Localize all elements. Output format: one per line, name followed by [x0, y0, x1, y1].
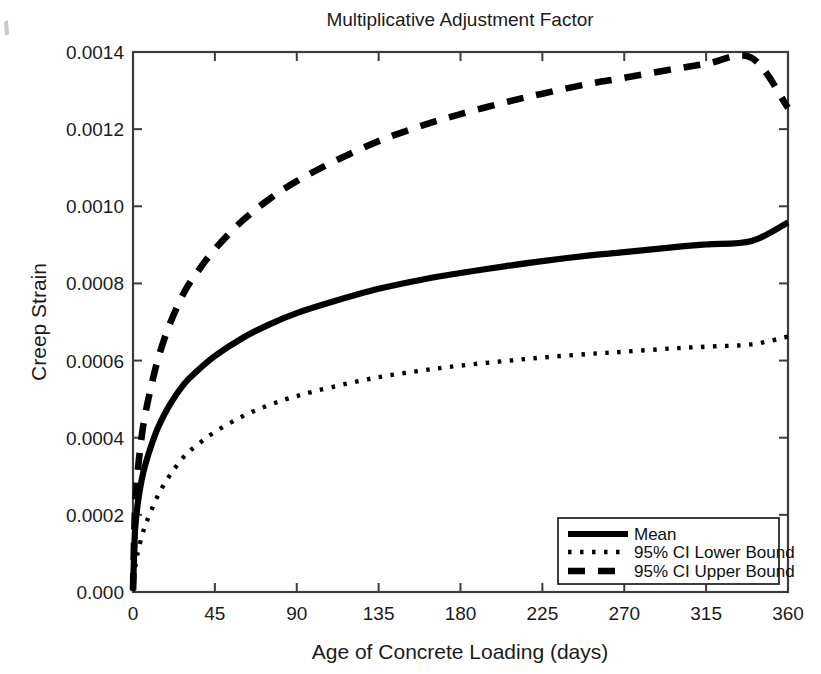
- figure-container: Multiplicative Adjustment Factor 0.0000.…: [0, 0, 821, 674]
- y-tick-label: 0.0006: [66, 351, 124, 372]
- y-tick-label: 0.000: [76, 582, 124, 603]
- x-tick-label: 315: [690, 603, 722, 624]
- x-tick-label: 360: [772, 603, 804, 624]
- legend-label: 95% CI Lower Bound: [634, 543, 795, 562]
- legend-label: Mean: [634, 525, 677, 544]
- x-tick-label: 180: [445, 603, 477, 624]
- chart-title: Multiplicative Adjustment Factor: [326, 9, 594, 30]
- x-tick-label: 135: [363, 603, 395, 624]
- y-tick-label: 0.0008: [66, 273, 124, 294]
- x-tick-label: 0: [128, 603, 139, 624]
- y-axis-title: Creep Strain: [27, 263, 50, 381]
- y-tick-label: 0.0004: [66, 428, 125, 449]
- chart-legend: Mean95% CI Lower Bound95% CI Upper Bound: [558, 518, 795, 584]
- x-tick-label: 45: [204, 603, 225, 624]
- x-tick-label: 225: [527, 603, 559, 624]
- y-tick-label: 0.0002: [66, 505, 124, 526]
- legend-label: 95% CI Upper Bound: [634, 562, 795, 581]
- x-tick-label: 90: [286, 603, 307, 624]
- x-tick-label: 270: [608, 603, 640, 624]
- creep-strain-chart: Multiplicative Adjustment Factor 0.0000.…: [0, 0, 821, 674]
- y-tick-label: 0.0014: [66, 42, 125, 63]
- y-tick-label: 0.0012: [66, 119, 124, 140]
- x-axis-title: Age of Concrete Loading (days): [312, 640, 609, 663]
- y-tick-label: 0.0010: [66, 196, 124, 217]
